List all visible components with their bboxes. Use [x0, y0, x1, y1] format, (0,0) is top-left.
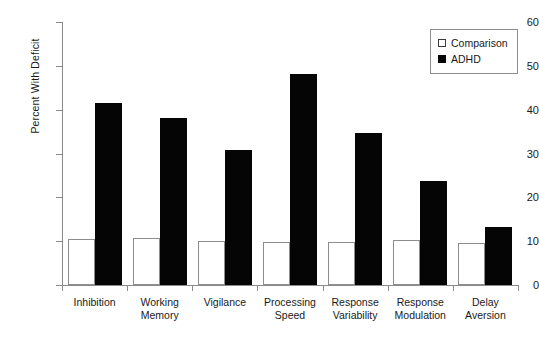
- legend-swatch-open-square-icon: [438, 39, 446, 47]
- legend-item-comparison: Comparison: [438, 35, 508, 51]
- bar-adhd-response-modulation: [420, 181, 447, 285]
- bar-group: [133, 22, 187, 285]
- x-tick-mark: [518, 285, 519, 291]
- bar-comparison-processing-speed: [263, 242, 290, 285]
- bar-comparison-inhibition: [68, 239, 95, 285]
- chart-legend: Comparison ADHD: [430, 29, 518, 74]
- x-axis-line: [62, 285, 518, 286]
- legend-label-comparison: Comparison: [451, 38, 508, 49]
- bar-adhd-vigilance: [225, 150, 252, 285]
- x-tick-label: Response Variability: [323, 296, 388, 322]
- x-tick-mark: [257, 285, 258, 291]
- x-tick-mark: [192, 285, 193, 291]
- bar-comparison-response-modulation: [393, 240, 420, 285]
- x-tick-label: Delay Aversion: [453, 296, 518, 322]
- bar-adhd-working-memory: [160, 118, 187, 285]
- bar-adhd-delay-aversion: [485, 227, 512, 285]
- legend-swatch-filled-square-icon: [438, 55, 446, 63]
- bar-group: [198, 22, 252, 285]
- bar-group: [263, 22, 317, 285]
- bar-adhd-processing-speed: [290, 74, 317, 285]
- bar-comparison-response-variability: [328, 242, 355, 285]
- x-tick-label: Response Modulation: [388, 296, 453, 322]
- x-tick-mark: [453, 285, 454, 291]
- bar-adhd-response-variability: [355, 133, 382, 285]
- x-tick-label: Processing Speed: [257, 296, 322, 322]
- x-tick-mark: [62, 285, 63, 291]
- bar-comparison-working-memory: [133, 238, 160, 285]
- bar-comparison-delay-aversion: [458, 243, 485, 285]
- bar-group: [68, 22, 122, 285]
- x-tick-label: Inhibition: [62, 296, 127, 309]
- x-tick-label: Working Memory: [127, 296, 192, 322]
- legend-label-adhd: ADHD: [451, 54, 481, 65]
- x-tick-mark: [323, 285, 324, 291]
- y-axis-title: Percent With Deficit: [29, 0, 41, 181]
- bar-chart: Percent With Deficit 0102030405060 Inhib…: [0, 0, 539, 347]
- x-tick-mark: [388, 285, 389, 291]
- bar-comparison-vigilance: [198, 241, 225, 285]
- x-tick-mark: [127, 285, 128, 291]
- x-tick-label: Vigilance: [192, 296, 257, 309]
- legend-item-adhd: ADHD: [438, 51, 508, 67]
- bar-adhd-inhibition: [95, 103, 122, 285]
- bar-group: [328, 22, 382, 285]
